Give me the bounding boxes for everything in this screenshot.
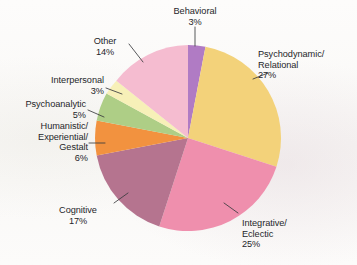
pie-label-interpersonal: Interpersonal 3% xyxy=(0,75,104,96)
pie-label-other: Other 14% xyxy=(80,36,130,57)
pie-label-humanistic-experiential-gestalt: Humanistic/ Experiential/ Gestalt 6% xyxy=(0,121,88,163)
pie-label-psychodynamic-relational: Psychodynamic/ Relational 27% xyxy=(258,49,357,81)
pie-slices xyxy=(95,45,281,231)
leader-line-other xyxy=(129,44,143,62)
pie-chart-page: Behavioral 3% Psychodynamic/ Relational … xyxy=(0,0,357,265)
pie-label-cognitive: Cognitive 17% xyxy=(42,205,114,226)
pie-label-psychoanalytic: Psychoanalytic 5% xyxy=(0,99,86,120)
pie-label-behavioral: Behavioral 3% xyxy=(152,6,238,27)
pie-label-integrative-eclectic: Integrative/ Eclectic 25% xyxy=(242,218,357,250)
